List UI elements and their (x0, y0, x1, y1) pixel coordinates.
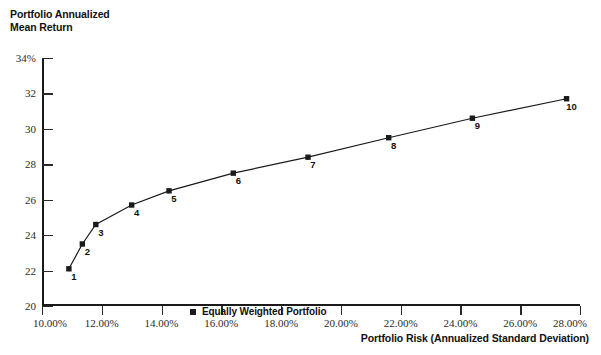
y-tick-label: 32 (25, 87, 36, 99)
y-tick-label: 22 (25, 265, 36, 277)
x-tick (341, 306, 342, 315)
data-point-label: 10 (566, 101, 577, 112)
legend-square-marker-icon (190, 309, 196, 315)
x-axis-title: Portfolio Risk (Annualized Standard Devi… (361, 332, 589, 344)
data-point-label: 9 (475, 120, 480, 131)
y-tick-label: 26 (25, 194, 36, 206)
plot-area: 34%32302826242220 10.00%12.00%14.00%16.0… (42, 58, 580, 306)
x-tick-label: 28.00% (553, 317, 587, 329)
y-tick-label: 30 (25, 123, 36, 135)
x-tick-label: 12.00% (85, 317, 119, 329)
data-point-label: 1 (71, 271, 76, 282)
y-tick: 20 (42, 306, 53, 307)
y-tick-label: 28 (25, 158, 36, 170)
x-tick (520, 306, 521, 315)
x-tick (102, 306, 103, 315)
x-tick (42, 306, 43, 315)
data-point-label: 4 (134, 207, 139, 218)
series-polyline (69, 99, 567, 269)
x-tick-label: 26.00% (503, 317, 537, 329)
y-tick-label: 24 (25, 229, 36, 241)
x-tick (580, 306, 581, 315)
y-tick-label: 20 (25, 300, 36, 312)
y-tick-label: 34% (16, 52, 36, 64)
data-point-label: 3 (98, 227, 103, 238)
legend: Equally Weighted Portfolio (190, 306, 326, 317)
x-tick (401, 306, 402, 315)
x-tick-label: 22.00% (384, 317, 418, 329)
y-axis-title: Portfolio Annualized Mean Return (10, 8, 110, 34)
x-tick (162, 306, 163, 315)
x-tick-label: 24.00% (443, 317, 477, 329)
x-tick-label: 14.00% (145, 317, 179, 329)
data-point-label: 5 (171, 193, 176, 204)
x-tick-label: 18.00% (264, 317, 298, 329)
data-point-label: 8 (391, 140, 396, 151)
x-tick-label: 10.00% (33, 317, 67, 329)
x-tick-label: 16.00% (204, 317, 238, 329)
x-tick-label: 20.00% (324, 317, 358, 329)
series-line-equally-weighted-portfolio (42, 58, 580, 306)
data-point-label: 7 (310, 159, 315, 170)
data-point-label: 6 (236, 175, 241, 186)
data-point-label: 2 (85, 246, 90, 257)
legend-label: Equally Weighted Portfolio (202, 306, 326, 317)
chart-page: Portfolio Annualized Mean Return 34%3230… (0, 0, 601, 355)
x-tick (460, 306, 461, 315)
